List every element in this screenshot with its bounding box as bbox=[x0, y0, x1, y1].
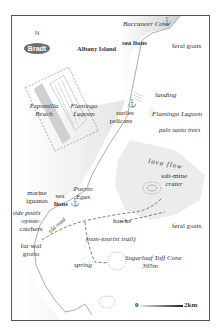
north-coast-shade bbox=[120, 16, 180, 100]
label-feral-goats-top: feral goats bbox=[172, 43, 201, 50]
scale-bar bbox=[141, 305, 183, 307]
label-albany-island: Albany Island bbox=[77, 45, 116, 52]
label-fur-seal: fur seal bbox=[14, 243, 48, 250]
label-grotto: grotto bbox=[14, 251, 48, 258]
label-puerto: Puerto bbox=[70, 186, 96, 193]
label-salt-mine: salt-mine bbox=[157, 173, 191, 180]
label-lagoon-inset: Lagoon bbox=[66, 111, 102, 118]
label-lions: lions bbox=[50, 201, 72, 208]
label-pelicans: pelicans bbox=[106, 118, 136, 125]
label-sea: sea bbox=[50, 193, 70, 200]
label-flamingo-inset: Flamingo bbox=[66, 103, 102, 110]
label-egas: Egas bbox=[70, 194, 96, 201]
label-buccaneer-cove: Buccaneer Cove bbox=[123, 21, 153, 28]
label-395m: 395m bbox=[130, 263, 170, 270]
label-beach: Beach bbox=[26, 111, 62, 118]
label-espumilla: Espumilla bbox=[26, 103, 62, 110]
label-oyster: oyster- bbox=[14, 218, 48, 225]
label-crater: crater bbox=[157, 181, 191, 188]
lava-flow-area bbox=[115, 140, 205, 220]
sugarloaf-cone bbox=[108, 252, 126, 270]
label-palo-santo: palo santo trees bbox=[159, 126, 200, 133]
label-sugarloaf: Sugarloaf Tuff Cone bbox=[125, 255, 182, 262]
label-catchers: catchers bbox=[14, 226, 48, 233]
north-label: N bbox=[35, 30, 39, 36]
label-non-tourist-trail: (non-tourist trail) bbox=[86, 236, 136, 243]
scale-end: 2km bbox=[184, 302, 197, 309]
label-tide-pools: tide pools bbox=[13, 210, 40, 217]
label-turtles: turtles bbox=[112, 110, 138, 117]
label-hawks: hawks bbox=[113, 218, 131, 225]
label-landing: landing bbox=[155, 92, 176, 99]
label-sea-lions-top: sea lions bbox=[122, 40, 147, 47]
label-flamingo-lagoon: Flamingo Lagoon bbox=[152, 111, 202, 118]
bradt-logo: Bradt bbox=[24, 43, 50, 54]
label-feral-goats-bottom: feral goats bbox=[172, 223, 201, 230]
scale-start: 0 bbox=[135, 302, 139, 309]
label-spring: spring bbox=[74, 262, 92, 269]
anchor-icon: ⚓ bbox=[127, 100, 137, 107]
